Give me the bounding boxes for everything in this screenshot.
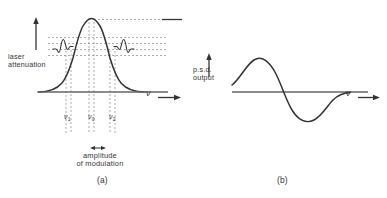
x-axis-label-nu-panel-b: ν [346, 88, 351, 98]
tick-label-nu2-subscript: 2 [113, 116, 116, 122]
annotation-amplitude-line2: of modulation [52, 160, 148, 168]
x-axis-arrow-b [358, 95, 380, 100]
x-axis-arrow-a [158, 95, 181, 100]
annotation-amplitude-of-modulation: amplitude of modulation [52, 152, 148, 169]
x-axis-label-nu-panel-a: ν [146, 88, 151, 98]
tick-label-nu0-subscript: 0 [92, 116, 95, 122]
panel-caption-a: (a) [97, 176, 108, 185]
y-axis-arrow-a [33, 17, 38, 50]
y-axis-label-laser-attenuation-line2: attenuation [8, 61, 46, 69]
tick-label-nu0: ν0 [88, 113, 95, 123]
modulation-waveform-left-icon [53, 40, 73, 53]
tick-label-nu2: ν2 [109, 113, 116, 123]
tick-label-nu1: ν1 [64, 113, 71, 123]
panel-b [206, 53, 380, 122]
figure-root: laser attenuation p.s.d. output ν ν ν1 ν… [0, 0, 387, 198]
modulation-waveform-right-icon [114, 40, 134, 53]
panel-a [33, 17, 182, 150]
y-axis-label-psd-output-line2: output [193, 74, 214, 82]
psd-output-curve [232, 58, 350, 121]
y-axis-label-laser-attenuation: laser attenuation [8, 53, 46, 69]
y-axis-label-psd-output: p.s.d. output [193, 66, 214, 82]
modulation-amplitude-arrow [90, 146, 106, 150]
panel-caption-b: (b) [277, 176, 288, 185]
tick-label-nu1-subscript: 1 [68, 116, 71, 122]
